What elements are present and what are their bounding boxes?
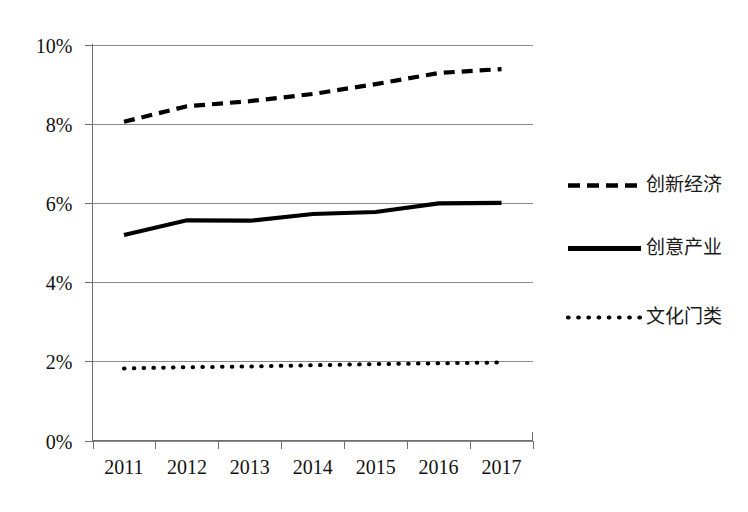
data-series-group — [124, 69, 502, 368]
legend-item-2[interactable]: 创意产业 — [568, 236, 722, 258]
series-line-2 — [124, 203, 502, 235]
x-tick-label-2012: 2012 — [167, 456, 207, 478]
x-tick-label-2014: 2014 — [293, 456, 333, 478]
chart-canvas: 0%2%4%6%8%10% 20112012201320142015201620… — [0, 0, 748, 512]
y-tick-label-2: 2% — [46, 351, 73, 373]
x-tick-label-2013: 2013 — [230, 456, 270, 478]
y-tick-labels-group: 0%2%4%6%8%10% — [36, 35, 73, 453]
x-tick-label-2011: 2011 — [104, 456, 143, 478]
series-line-1 — [124, 69, 502, 122]
x-tick-labels-group: 2011201220132014201520162017 — [104, 456, 521, 478]
gridlines-group — [93, 46, 534, 442]
legend-item-3[interactable]: 文化门类 — [568, 305, 722, 327]
x-tick-label-2015: 2015 — [356, 456, 396, 478]
legend-label-2: 创意产业 — [646, 236, 722, 258]
y-tick-label-8: 8% — [46, 114, 73, 136]
y-tick-label-4: 4% — [46, 272, 73, 294]
y-tick-label-0: 0% — [46, 431, 73, 453]
chart-legend: 创新经济创意产业文化门类 — [568, 173, 722, 327]
legend-item-1[interactable]: 创新经济 — [568, 173, 722, 195]
legend-label-3: 文化门类 — [646, 305, 722, 327]
x-tick-label-2016: 2016 — [419, 456, 459, 478]
x-tick-label-2017: 2017 — [482, 456, 522, 478]
y-tick-label-10: 10% — [36, 35, 73, 57]
line-chart: 0%2%4%6%8%10% 20112012201320142015201620… — [0, 0, 748, 512]
y-tick-label-6: 6% — [46, 193, 73, 215]
series-line-3 — [124, 362, 502, 368]
y-tick-marks-group — [85, 46, 93, 442]
legend-label-1: 创新经济 — [646, 173, 722, 195]
